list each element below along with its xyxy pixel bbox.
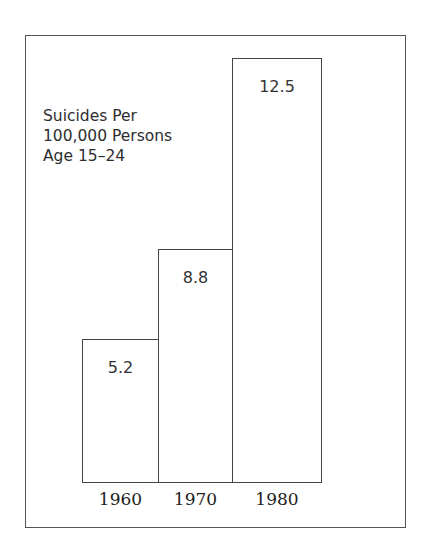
chart-title-line-1: Suicides Per xyxy=(43,106,172,126)
chart-title-line-2: 100,000 Persons xyxy=(43,126,172,146)
bar-value-label: 12.5 xyxy=(233,77,321,96)
x-tick-1960: 1960 xyxy=(82,489,159,509)
x-tick-1970: 1970 xyxy=(158,489,233,509)
chart-title: Suicides Per 100,000 Persons Age 15–24 xyxy=(43,106,172,166)
chart-title-line-3: Age 15–24 xyxy=(43,146,172,166)
bar-1980: 12.5 xyxy=(232,58,322,483)
bar-value-label: 8.8 xyxy=(159,268,232,287)
bar-1960: 5.2 xyxy=(82,339,159,483)
bar-1970: 8.8 xyxy=(158,249,233,483)
bar-value-label: 5.2 xyxy=(83,358,158,377)
x-tick-1980: 1980 xyxy=(232,489,322,509)
